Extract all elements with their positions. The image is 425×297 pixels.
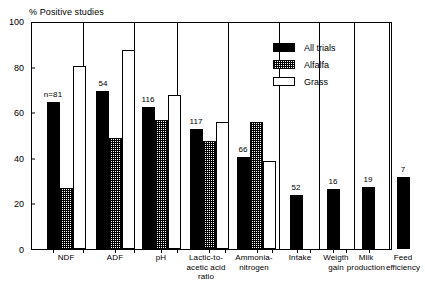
legend-swatch-all-trials-icon [273, 43, 295, 52]
bar-label-ammonia-nitrogen: 66 [229, 146, 257, 154]
x-tick-label-line: efficiency [379, 263, 425, 273]
bar-ndf-grass [73, 66, 86, 249]
y-tick-label: 20 [14, 200, 24, 209]
bar-label-feed-efficiency: 7 [389, 166, 417, 174]
x-tick-label-line: acetic acid [178, 263, 234, 273]
bar-milk-production-all-trials [362, 187, 375, 249]
y-tick-label: 60 [14, 109, 24, 118]
legend-item-grass: Grass [273, 74, 383, 89]
legend-item-alfalfa: Alfalfa [273, 57, 383, 72]
chart-title: % Positive studies [29, 7, 104, 18]
y-tick-label: 0 [19, 246, 24, 255]
bar-ph-alfalfa [155, 120, 168, 249]
x-tick-label-adf: ADF [90, 253, 140, 263]
x-tick-label-lactic-acetic: Lactic-to- acetic acid ratio [178, 253, 234, 282]
bar-ammonia-nitrogen-grass [263, 161, 276, 249]
y-axis: 100 80 60 40 20 0 [0, 22, 28, 250]
bar-adf-all-trials [96, 91, 109, 249]
x-tick-label-ammonia-nitrogen: Ammonia- nitrogen [228, 253, 280, 272]
bar-ph-grass [168, 95, 181, 249]
x-tick-label-line: Lactic-to- [178, 253, 234, 263]
legend-label-alfalfa: Alfalfa [304, 60, 329, 70]
y-tick-label: 100 [9, 18, 24, 27]
bar-label-lactic-acetic: 117 [182, 118, 210, 126]
bar-label-ph: 116 [134, 96, 162, 104]
bar-weight-gain-all-trials [327, 189, 340, 249]
legend: All trials Alfalfa Grass [273, 40, 383, 91]
bar-adf-grass [122, 50, 135, 249]
bar-lactic-acetic-all-trials [190, 129, 203, 249]
x-tick-label-ndf: NDF [41, 253, 91, 263]
bar-label-intake: 52 [282, 184, 310, 192]
bar-lactic-acetic-grass [216, 122, 229, 249]
bar-adf-alfalfa [109, 138, 122, 249]
legend-label-all-trials: All trials [304, 43, 336, 53]
bar-label-adf: 54 [89, 80, 117, 88]
bar-intake-all-trials [290, 195, 303, 249]
bar-feed-efficiency-all-trials [397, 177, 410, 249]
bar-ammonia-nitrogen-alfalfa [250, 122, 263, 249]
bar-label-milk-production: 19 [354, 176, 382, 184]
x-tick-label-line: ADF [90, 253, 140, 263]
x-tick-label-line: ratio [178, 272, 234, 282]
bar-ndf-all-trials [47, 102, 60, 249]
bar-lactic-acetic-alfalfa [203, 141, 216, 249]
x-tick-label-feed-efficiency: Feed efficiency [379, 253, 425, 272]
x-tick-label-line: nitrogen [228, 263, 280, 273]
bar-ammonia-nitrogen-all-trials [237, 157, 250, 249]
legend-item-all-trials: All trials [273, 40, 383, 55]
x-axis: NDF ADF pH Lactic-to- acetic acid ratio … [32, 253, 391, 297]
group-separator [389, 23, 390, 249]
legend-swatch-grass-icon [273, 77, 295, 86]
bar-label-ndf: n=81 [38, 91, 68, 99]
bar-label-weight-gain: 16 [319, 178, 347, 186]
legend-swatch-alfalfa-icon [273, 60, 295, 69]
bar-ph-all-trials [142, 107, 155, 249]
x-tick-label-line: Feed [379, 253, 425, 263]
x-tick-label-line: NDF [41, 253, 91, 263]
y-tick-label: 80 [14, 63, 24, 72]
legend-label-grass: Grass [304, 77, 328, 87]
bar-ndf-alfalfa [60, 188, 73, 249]
x-tick-label-line: Ammonia- [228, 253, 280, 263]
y-tick-label: 40 [14, 154, 24, 163]
